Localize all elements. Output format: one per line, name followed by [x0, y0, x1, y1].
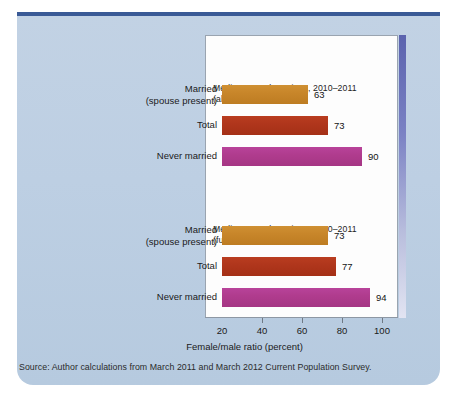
x-axis-tick-label: 100 [367, 325, 397, 336]
x-axis-title-text: Female/male ratio (percent) [186, 341, 303, 352]
x-axis-tick-label: 20 [207, 325, 237, 336]
x-axis-tick [382, 318, 383, 323]
source-note: Source: Author calculations from March 2… [19, 362, 372, 372]
x-axis-tick-label: 80 [327, 325, 357, 336]
category-label: Never married [157, 150, 217, 162]
category-label: Total [197, 119, 217, 131]
bar-0-0 [222, 85, 308, 104]
bar-value-label: 73 [334, 116, 345, 135]
x-axis-tick-label: 40 [247, 325, 277, 336]
bar-value-label: 90 [368, 147, 379, 166]
accent-gradient-bar [399, 35, 406, 318]
x-axis-tick [262, 318, 263, 323]
bar-1-2 [222, 288, 370, 307]
top-rule-divider [17, 12, 440, 16]
bar-1-0 [222, 226, 328, 245]
bar-0-1 [222, 116, 328, 135]
bar-value-label: 63 [314, 85, 325, 104]
bar-value-label: 94 [376, 288, 387, 307]
bar-0-2 [222, 147, 362, 166]
x-axis-tick [342, 318, 343, 323]
category-label: Married (spouse present) [146, 83, 217, 106]
category-label: Married (spouse present) [146, 224, 217, 247]
x-axis-title: Female/male ratio (percent) [0, 341, 423, 352]
bar-1-1 [222, 257, 336, 276]
bar-value-label: 73 [334, 226, 345, 245]
x-axis-line [205, 317, 398, 318]
x-axis-tick [302, 318, 303, 323]
bar-value-label: 77 [342, 257, 353, 276]
x-axis-tick-label: 60 [287, 325, 317, 336]
category-label: Total [197, 260, 217, 272]
category-label: Never married [157, 291, 217, 303]
